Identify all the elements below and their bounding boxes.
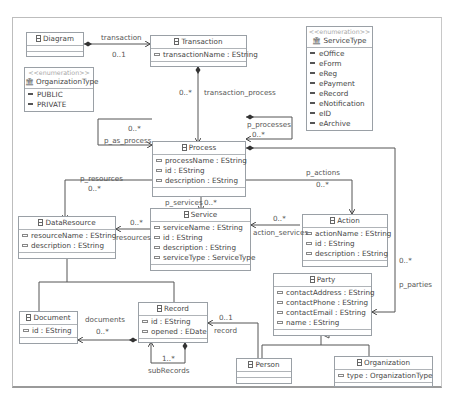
class-name: Service	[191, 210, 218, 219]
class-person[interactable]: Person	[236, 358, 292, 384]
attribute[interactable]: id : EString	[154, 233, 247, 243]
attribute[interactable]: processName : EString	[156, 156, 242, 166]
attribute[interactable]: contactPhone : EString	[277, 298, 368, 308]
class-name: Person	[255, 360, 279, 369]
class-party[interactable]: Party contactAddress : EString contactPh…	[273, 273, 372, 336]
attribute-icon	[156, 159, 162, 162]
class-organization[interactable]: Organization type : OrganizationType	[334, 356, 433, 387]
attribute-icon	[23, 329, 29, 332]
enum-literal[interactable]: eRecord	[310, 89, 369, 99]
ref-label-action-services: action_services	[253, 228, 308, 237]
attribute[interactable]: id : EString	[306, 239, 384, 249]
attribute-icon	[277, 301, 283, 304]
attribute-icon	[277, 321, 283, 324]
ref-mult-p-services: 0..*	[204, 198, 217, 207]
attribute[interactable]: resourceName : EString	[22, 231, 112, 241]
ref-mult-transaction-process: 0..*	[179, 88, 192, 97]
class-icon	[182, 144, 187, 151]
attribute[interactable]: contactAddress : EString	[277, 288, 368, 298]
class-process[interactable]: Process processName : EString id : EStri…	[152, 141, 246, 197]
attribute[interactable]: description : EString	[156, 176, 242, 186]
literal-icon	[310, 82, 315, 84]
class-action[interactable]: Action actionName : EString id : EString…	[302, 214, 388, 267]
ref-mult-p-actions: 0..*	[316, 180, 329, 189]
class-name: Record	[164, 304, 189, 313]
literal-icon	[310, 92, 315, 94]
class-name: Document	[33, 313, 70, 322]
attribute-icon	[154, 256, 160, 259]
class-name: Organization	[364, 358, 410, 367]
class-transaction[interactable]: Transaction transactionName : EString	[150, 35, 247, 67]
class-data-resource[interactable]: DataResource resourceName : EString desc…	[18, 216, 116, 259]
attribute[interactable]: description : EString	[22, 241, 112, 251]
class-diagram[interactable]: Diagram	[26, 32, 84, 57]
enumeration-icon: 🏛︎	[312, 37, 321, 45]
attribute[interactable]: actionName : EString	[306, 229, 384, 239]
enum-service-type[interactable]: <<enumeration>> 🏛︎ServiceType eOffice eF…	[306, 26, 373, 131]
attribute[interactable]: name : EString	[277, 318, 368, 328]
ref-mult-transaction: 0..1	[112, 50, 126, 59]
class-icon	[38, 219, 43, 226]
attribute[interactable]: description : EString	[306, 249, 384, 259]
attribute-icon	[154, 53, 160, 56]
ref-label-p-resources: p_resources	[80, 174, 123, 183]
attribute-icon	[277, 291, 283, 294]
enum-literal[interactable]: eArchive	[310, 119, 369, 129]
attribute[interactable]: transactionName : EString	[154, 50, 243, 60]
class-name: Action	[337, 216, 360, 225]
attribute-icon	[338, 374, 344, 377]
attribute-icon	[142, 330, 148, 333]
attribute[interactable]: description : EString	[154, 243, 247, 253]
enum-literal[interactable]: PUBLIC	[28, 90, 90, 100]
attribute-icon	[22, 244, 28, 247]
attribute[interactable]: id : EString	[142, 317, 204, 327]
ref-label-transaction: transaction	[101, 33, 142, 42]
attribute[interactable]: id : EString	[156, 166, 242, 176]
attribute[interactable]: opened : EDate	[142, 327, 204, 337]
attribute[interactable]: serviceType : ServiceType	[154, 253, 247, 263]
class-icon	[248, 361, 253, 368]
enum-stereotype: <<enumeration>>	[25, 68, 93, 77]
ref-label-p-processes: p_processes	[247, 120, 291, 129]
literal-icon	[310, 112, 315, 114]
attribute-icon	[154, 246, 160, 249]
enum-literal[interactable]: eNotification	[310, 99, 369, 109]
ref-mult-p-parties: 0..*	[399, 256, 412, 265]
class-service[interactable]: Service serviceName : EString id : EStri…	[150, 208, 251, 271]
class-icon	[36, 35, 41, 42]
ref-label-resources: resources	[116, 233, 151, 242]
literal-icon	[28, 103, 33, 105]
enum-literal[interactable]: eReg	[310, 69, 369, 79]
class-icon	[310, 276, 315, 283]
attribute[interactable]: id : EString	[23, 326, 74, 336]
class-record[interactable]: Record id : EString opened : EDate	[138, 302, 208, 343]
attribute[interactable]: type : OrganizationType	[338, 371, 429, 381]
enum-literal[interactable]: PRIVATE	[28, 100, 90, 110]
ref-mult-record: 0..1	[219, 313, 233, 322]
enum-literal[interactable]: eOffice	[310, 49, 369, 59]
attribute-icon	[156, 179, 162, 182]
enum-literal[interactable]: eID	[310, 109, 369, 119]
ref-mult-p-as-process: 0..*	[128, 124, 141, 133]
attribute-icon	[22, 234, 28, 237]
attribute-icon	[306, 242, 312, 245]
class-name: Party	[317, 275, 335, 284]
class-icon	[174, 38, 179, 45]
ref-mult-p-processes: 0..*	[252, 130, 265, 139]
attribute-icon	[154, 236, 160, 239]
class-document[interactable]: Document id : EString	[19, 311, 78, 344]
attribute[interactable]: serviceName : EString	[154, 223, 247, 233]
ref-label-transaction-process: transaction_process	[204, 88, 276, 97]
ref-mult-documents: 0..*	[96, 327, 109, 336]
attribute[interactable]: contactEmail : EString	[277, 308, 368, 318]
ref-label-sub-records: subRecords	[148, 366, 189, 375]
class-name: DataResource	[45, 218, 95, 227]
ref-mult-resources: 0..*	[130, 218, 143, 227]
enum-literal[interactable]: eForm	[310, 59, 369, 69]
enum-organization-type[interactable]: <<enumeration>> 🏛︎OrganizationType PUBLI…	[24, 67, 94, 112]
class-icon	[357, 359, 362, 366]
enum-literal[interactable]: ePayment	[310, 79, 369, 89]
ref-label-documents: documents	[85, 315, 125, 324]
class-name: Transaction	[181, 37, 222, 46]
ref-label-p-services: p_services	[165, 198, 203, 207]
